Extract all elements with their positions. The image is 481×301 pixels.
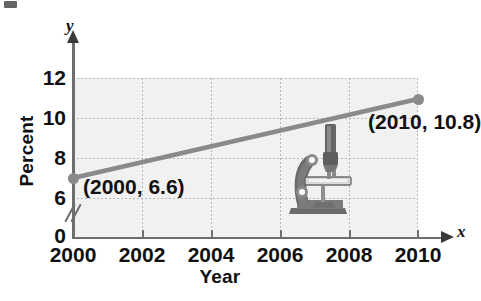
x-axis-arrow-icon <box>441 231 454 243</box>
xtick-label-2006: 2006 <box>243 243 317 267</box>
xtick-label-2000: 2000 <box>36 243 110 267</box>
x-axis-title: Year <box>150 266 290 288</box>
xtick-label-2010: 2010 <box>381 243 455 267</box>
gridline-y-8 <box>73 158 418 159</box>
page-bleed-artifact <box>4 1 17 8</box>
ytick-label-10: 10 <box>38 106 66 130</box>
ytick-label-12: 12 <box>38 66 66 90</box>
xtick-mark-2006 <box>280 230 282 237</box>
gridline-y-12 <box>73 78 418 79</box>
gridline-x-2006 <box>280 78 281 237</box>
gridline-y-10 <box>73 118 418 119</box>
data-point-2010 <box>413 94 424 105</box>
x-axis-letter: x <box>457 222 466 242</box>
plot-area <box>73 78 418 237</box>
data-point-2000 <box>68 173 79 184</box>
xtick-label-2004: 2004 <box>174 243 248 267</box>
data-point-label-2010: (2010, 10.8) <box>368 110 481 134</box>
xtick-mark-2000 <box>73 230 75 237</box>
xtick-mark-2010 <box>417 230 419 237</box>
xtick-mark-2002 <box>142 230 144 237</box>
chart-figure: y x 12 10 8 6 0 2000 2002 2004 2006 2008… <box>0 0 481 301</box>
xtick-mark-2004 <box>211 230 213 237</box>
microscope-illustration <box>285 122 357 222</box>
ytick-label-6: 6 <box>38 186 66 210</box>
ytick-label-8: 8 <box>38 146 66 170</box>
y-axis-title: Percent <box>16 101 38 201</box>
gridline-x-2002 <box>142 78 143 237</box>
x-axis-line <box>72 237 444 240</box>
xtick-label-2008: 2008 <box>312 243 386 267</box>
xtick-mark-2008 <box>349 230 351 237</box>
gridline-x-2004 <box>211 78 212 237</box>
xtick-label-2002: 2002 <box>105 243 179 267</box>
y-axis-letter: y <box>66 16 74 36</box>
data-point-label-2000: (2000, 6.6) <box>83 175 185 199</box>
